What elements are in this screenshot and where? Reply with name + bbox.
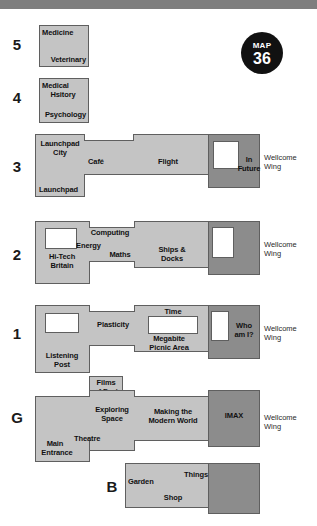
level1-block-time-void xyxy=(148,316,198,334)
level2-label-hitech-line1: Hi-Tech xyxy=(38,252,86,261)
levelB-label-shop: Shop xyxy=(155,493,191,502)
level3-seam-2 xyxy=(132,141,135,174)
levelG-label-making-line1: Making the xyxy=(140,407,206,416)
level1-block-void xyxy=(45,313,79,333)
level1-label-wellcome-wing-line1: Wellcome xyxy=(264,324,297,333)
levelG-label-making-line2: Modern World xyxy=(138,416,208,425)
floor-label-b: B xyxy=(103,478,121,495)
level2-label-wellcome-wing-line1: Wellcome xyxy=(264,240,297,249)
level2-label-ships-line1: Ships & xyxy=(150,245,194,254)
level2-label-computing: Computing xyxy=(80,228,140,237)
levelB-label-garden: Garden xyxy=(128,477,154,486)
level4-label-history: Hsitory xyxy=(40,90,86,99)
level3-label-in-future-line2: Future xyxy=(236,164,262,173)
level1-label-whoami-line2: am I? xyxy=(231,330,257,339)
level5-label-veterinary: Veterinary xyxy=(40,55,86,64)
level3-label-in-future-line1: In xyxy=(238,155,260,164)
levelG-label-entrance-line1: Main xyxy=(37,439,73,448)
level1-label-time: Time xyxy=(152,307,194,316)
level3-label-launchpad-city-line2: City xyxy=(37,148,83,157)
floor-label-5: 5 xyxy=(8,36,26,53)
level3-label-flight: Flight xyxy=(140,157,196,166)
level1-label-whoami-line1: Who xyxy=(231,321,257,330)
level1-label-megabite-line2: Picnic Area xyxy=(140,343,198,352)
floor-label-2: 2 xyxy=(8,246,26,263)
museum-floor-map: MAP 36 5 4 3 2 1 G B Medicine Veterinary… xyxy=(0,0,317,526)
level2-label-maths: Maths xyxy=(100,250,140,259)
level3-label-cafe: Café xyxy=(88,157,104,166)
floor-label-4: 4 xyxy=(8,89,26,106)
level3-seam-1 xyxy=(84,141,87,174)
level2-label-energy: Energy xyxy=(76,241,101,250)
level2-block-wing-void xyxy=(212,227,234,258)
levelG-label-films-line1: Films xyxy=(89,378,123,387)
levelG-label-imax: IMAX xyxy=(215,411,253,420)
level1-label-listening-line1: Listening xyxy=(37,351,87,360)
level1-block-wing-void xyxy=(211,311,229,341)
levelG-label-wellcome-wing-line1: Wellcome xyxy=(264,413,297,422)
level1-label-listening-line2: Post xyxy=(37,360,87,369)
level3-label-launchpad: Launchpad xyxy=(39,185,78,194)
level1-label-plasticity: Plasticity xyxy=(90,320,136,329)
map-badge-word: MAP xyxy=(241,32,283,50)
levelG-label-exploring-line2: Space xyxy=(89,414,135,423)
top-banner-strip xyxy=(0,0,317,9)
map-badge-number: 36 xyxy=(241,50,283,67)
level4-label-medical: Medical xyxy=(42,81,88,90)
levelG-label-wellcome-wing-line2: Wing xyxy=(264,422,281,431)
level3-block-flight[interactable] xyxy=(133,134,215,175)
level2-label-hitech-line2: Britain xyxy=(38,261,86,270)
map-number-badge: MAP 36 xyxy=(241,32,283,74)
level2-label-ships-line2: Docks xyxy=(150,254,194,263)
level1-label-wellcome-wing-line2: Wing xyxy=(264,333,281,342)
floor-label-3: 3 xyxy=(8,158,26,175)
levelG-label-exploring-line1: Exploring xyxy=(89,405,135,414)
level2-label-wellcome-wing-line2: Wing xyxy=(264,249,281,258)
floor-label-g: G xyxy=(8,409,26,426)
levelG-label-theatre: Theatre xyxy=(74,434,100,443)
levelB-block-basement-wing[interactable] xyxy=(208,463,260,514)
level3-label-wellcome-wing-line1: Wellcome xyxy=(264,153,297,162)
level4-label-psychology: Psychology xyxy=(40,110,86,119)
level1-label-megabite-line1: Megabite xyxy=(142,334,196,343)
level5-label-medicine: Medicine xyxy=(42,28,88,37)
level2-block-void xyxy=(45,228,77,249)
level3-label-wellcome-wing-line2: Wing xyxy=(264,162,281,171)
levelG-label-entrance-line2: Entrance xyxy=(35,448,79,457)
levelB-label-things: Things xyxy=(160,470,208,479)
level3-label-launchpad-city-line1: Launchpad xyxy=(37,139,83,148)
floor-label-1: 1 xyxy=(8,325,26,342)
